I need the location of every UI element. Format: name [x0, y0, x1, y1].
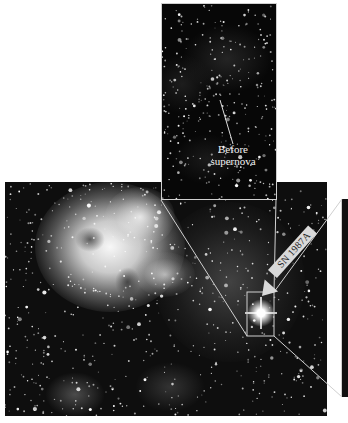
side-inset-panel [341, 199, 348, 397]
before-label-line2: supernova [205, 155, 261, 167]
star-field [5, 182, 327, 416]
before-inset-panel [161, 3, 277, 200]
before-label-line1: Before [205, 143, 261, 155]
main-photo-panel [5, 182, 327, 416]
before-supernova-label: Before supernova [205, 143, 261, 167]
star-field-before [162, 4, 277, 200]
